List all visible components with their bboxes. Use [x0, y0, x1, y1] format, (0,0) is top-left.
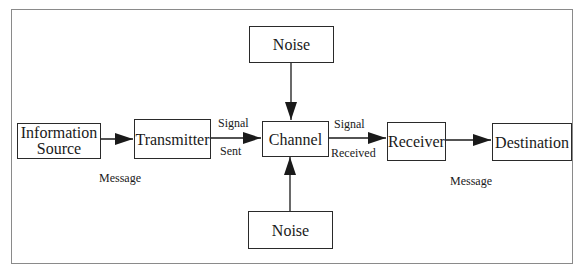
node-label: Source	[37, 141, 81, 157]
node-label: Channel	[269, 131, 322, 148]
node-transmitter: Transmitter	[134, 119, 211, 159]
node-label: Information	[21, 125, 97, 141]
edge-label-signal-received-bottom: Received	[331, 147, 376, 160]
node-channel: Channel	[262, 121, 329, 157]
node-destination: Destination	[492, 123, 572, 161]
edge-label-message-right: Message	[450, 175, 492, 188]
edge-label-signal-sent-bottom: Sent	[220, 145, 241, 158]
edge-label-signal-received-top: Signal	[334, 118, 365, 131]
node-label: Destination	[495, 134, 569, 151]
node-label: Transmitter	[135, 131, 209, 148]
node-label: Receiver	[388, 133, 445, 150]
node-noise-bottom: Noise	[248, 211, 333, 249]
node-noise-top: Noise	[249, 26, 334, 63]
node-information-source: Information Source	[17, 123, 101, 159]
node-label: Noise	[273, 36, 310, 53]
node-receiver: Receiver	[387, 122, 446, 161]
edge-label-signal-sent-top: Signal	[218, 117, 249, 130]
edge-label-message-left: Message	[99, 172, 141, 185]
node-label: Noise	[272, 222, 309, 239]
